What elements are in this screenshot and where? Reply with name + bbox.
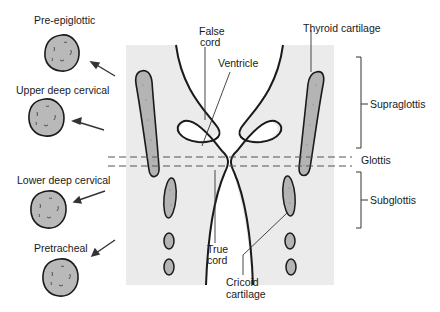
arrow-lower-deep-cervical [79, 191, 105, 200]
subglottis-bracket [356, 172, 361, 228]
tracheal-ring-right-1 [285, 233, 295, 249]
lymph-node-upper-deep-cervical [29, 99, 64, 136]
label-lower-deep-cervical: Lower deep cervical [17, 174, 110, 186]
label-thyroid-cartilage: Thyroid cartilage [303, 22, 381, 34]
label-true-cord-2: cord [207, 254, 227, 266]
lymph-node-pretracheal [43, 259, 78, 296]
label-cricoid-1: Cricoid [226, 276, 259, 288]
lymph-node-lower-deep-cervical [31, 191, 66, 228]
tracheal-ring-right-2 [286, 259, 296, 275]
label-false-cord-2: cord [200, 36, 220, 48]
label-pretracheal: Pretracheal [34, 242, 88, 254]
label-upper-deep-cervical: Upper deep cervical [16, 84, 109, 96]
label-ventricle: Ventricle [218, 57, 258, 69]
label-glottis: Glottis [361, 154, 391, 166]
arrowhead-pre-epiglottic [91, 62, 99, 68]
lymph-node-pre-epiglottic [45, 35, 79, 71]
label-cricoid-2: cartilage [226, 288, 266, 300]
arrowhead-lower-deep-cervical [74, 197, 81, 203]
arrowhead-pretracheal [92, 249, 99, 256]
label-subglottis: Subglottis [370, 194, 416, 206]
arrowhead-upper-deep-cervical [73, 118, 81, 124]
tracheal-ring-left-2 [164, 259, 174, 275]
tracheal-ring-left-1 [164, 233, 174, 249]
label-supraglottis: Supraglottis [370, 98, 425, 110]
arrow-upper-deep-cervical [78, 122, 104, 130]
supraglottis-bracket [356, 57, 361, 148]
arrow-pretracheal [96, 240, 115, 253]
label-pre-epiglottic: Pre-epiglottic [34, 14, 95, 26]
